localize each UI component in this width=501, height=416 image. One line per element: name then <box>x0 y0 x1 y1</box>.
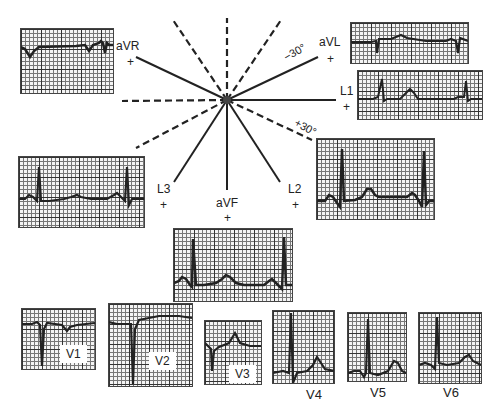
ecg-strip-v3: V3 <box>204 320 262 385</box>
axis-neg-l1 <box>122 100 227 101</box>
axis-neg-avl <box>136 100 227 148</box>
ecg-strip-v6 <box>418 312 482 384</box>
axis-l3 <box>174 100 227 182</box>
label-v3: V3 <box>229 365 256 383</box>
ecg-strip-v1: V1 <box>21 308 96 370</box>
label-l3: L3 <box>157 182 170 196</box>
ecg-strip-l1 <box>357 70 483 120</box>
plus-avf: + <box>224 211 231 225</box>
ecg-hexaxial-diagram: aVR + aVL + −30° L1 + +30° L2 + aVF + L3… <box>0 0 501 416</box>
plus-l2: + <box>292 198 299 212</box>
ecg-strip-v2: V2 <box>108 303 193 387</box>
ecg-strip-l3 <box>18 156 145 228</box>
ecg-strip-v5 <box>347 312 407 382</box>
label-v4: V4 <box>306 387 322 402</box>
label-v2: V2 <box>149 352 176 370</box>
label-l1: L1 <box>340 84 353 98</box>
plus-l1: + <box>343 100 350 114</box>
ecg-strip-avl <box>350 22 469 64</box>
plus-avl: + <box>327 52 334 66</box>
axis-l2 <box>227 100 280 182</box>
label-l2: L2 <box>288 182 301 196</box>
label-v6: V6 <box>443 385 459 400</box>
ecg-strip-avf <box>173 228 293 302</box>
plus-avr: + <box>127 55 134 69</box>
label-avf: aVF <box>216 196 238 210</box>
ecg-strip-v4 <box>272 310 335 384</box>
label-avr: aVR <box>116 39 139 53</box>
ecg-strip-l2 <box>316 138 435 220</box>
label-v5: V5 <box>370 385 386 400</box>
label-avl: aVL <box>319 35 340 49</box>
plus-l3: + <box>160 198 167 212</box>
label-v1: V1 <box>60 345 87 363</box>
ecg-strip-avr <box>20 28 114 94</box>
